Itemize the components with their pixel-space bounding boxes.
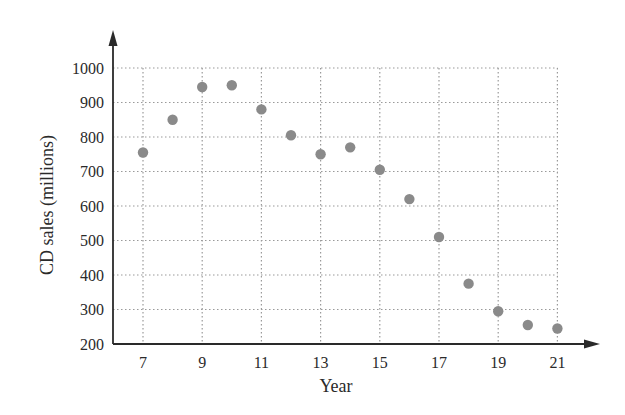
x-tick-label: 21 bbox=[549, 354, 565, 371]
x-tick-label: 15 bbox=[372, 354, 388, 371]
data-point bbox=[404, 194, 414, 204]
scatter-chart: 2003004005006007008009001000 79111315171… bbox=[0, 0, 625, 415]
data-point bbox=[463, 278, 473, 288]
x-tick-label: 11 bbox=[254, 354, 269, 371]
data-point bbox=[552, 323, 562, 333]
x-tick-label: 19 bbox=[490, 354, 506, 371]
y-tick-label: 200 bbox=[80, 336, 104, 353]
axes bbox=[109, 30, 601, 349]
y-tick-labels: 2003004005006007008009001000 bbox=[72, 60, 104, 353]
x-tick-labels: 79111315171921 bbox=[139, 354, 565, 371]
data-point bbox=[138, 147, 148, 157]
x-tick-label: 9 bbox=[198, 354, 206, 371]
x-axis-arrow-icon bbox=[584, 340, 600, 349]
data-point bbox=[286, 130, 296, 140]
data-points bbox=[138, 80, 563, 334]
data-point bbox=[345, 142, 355, 152]
y-tick-label: 1000 bbox=[72, 60, 104, 77]
data-point bbox=[493, 306, 503, 316]
y-tick-label: 300 bbox=[80, 301, 104, 318]
x-axis-title: Year bbox=[319, 376, 352, 396]
data-point bbox=[197, 82, 207, 92]
x-tick-label: 13 bbox=[313, 354, 329, 371]
data-point bbox=[167, 115, 177, 125]
data-point bbox=[434, 232, 444, 242]
x-tick-label: 7 bbox=[139, 354, 147, 371]
y-tick-label: 800 bbox=[80, 129, 104, 146]
data-point bbox=[227, 80, 237, 90]
y-axis-title: CD sales (millions) bbox=[37, 135, 58, 275]
y-axis-arrow-icon bbox=[109, 30, 118, 46]
data-point bbox=[375, 165, 385, 175]
x-tick-label: 17 bbox=[431, 354, 447, 371]
data-point bbox=[523, 320, 533, 330]
data-point bbox=[256, 104, 266, 114]
y-tick-label: 900 bbox=[80, 94, 104, 111]
gridlines bbox=[113, 68, 557, 344]
y-tick-label: 500 bbox=[80, 232, 104, 249]
y-tick-label: 700 bbox=[80, 163, 104, 180]
chart-canvas: 2003004005006007008009001000 79111315171… bbox=[0, 0, 625, 415]
y-tick-label: 600 bbox=[80, 198, 104, 215]
data-point bbox=[315, 149, 325, 159]
y-tick-label: 400 bbox=[80, 267, 104, 284]
